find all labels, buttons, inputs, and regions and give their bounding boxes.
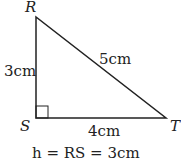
caption: h = RS = 3cm xyxy=(32,146,140,159)
vertex-label-s: S xyxy=(20,119,30,134)
vertex-label-r: R xyxy=(25,0,36,15)
vertex-label-t: T xyxy=(170,119,180,134)
side-label-rt: 5cm xyxy=(99,52,131,67)
side-label-rs: 3cm xyxy=(4,64,36,79)
side-label-st: 4cm xyxy=(88,124,120,139)
right-angle-marker xyxy=(36,106,48,118)
